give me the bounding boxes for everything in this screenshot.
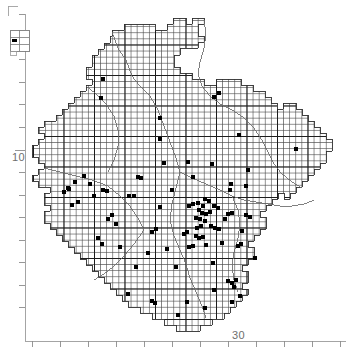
record-dot [70,203,75,208]
record-dot [176,313,181,318]
record-dot [203,219,208,224]
record-dot [182,232,187,237]
record-dot [238,294,243,299]
record-dot [100,242,105,247]
record-dot [212,95,217,100]
record-dot [62,190,67,195]
map-canvas: 10 30 [0,0,346,347]
record-dot [248,215,253,220]
record-dot [210,162,215,167]
record-dot [212,288,217,293]
record-dot [246,168,251,173]
record-dot [201,235,206,240]
record-dot [237,133,242,138]
record-dot [101,77,106,82]
record-dot [132,194,137,199]
record-dot [146,251,151,256]
record-dot [216,206,221,211]
record-dot [96,236,101,241]
record-dot [170,188,175,193]
record-dot [82,174,87,179]
record-dot [153,301,158,306]
record-dot [126,292,131,297]
record-dot [158,205,163,210]
grid-square-legend [10,30,29,55]
record-dot [134,265,139,270]
record-dot [203,306,208,311]
record-dot [234,278,239,283]
legend-marker-icon [12,39,17,43]
record-dot [158,116,163,121]
record-dot [106,217,111,222]
record-dot [88,182,93,187]
record-dot [73,180,78,185]
record-dot [174,265,179,270]
record-dot [165,247,170,252]
record-dot [207,199,212,204]
record-dot [76,200,81,205]
record-dot [229,182,234,187]
record-dot [244,184,249,189]
record-dot [185,300,190,305]
record-dot [118,245,123,250]
record-dot [199,224,204,229]
record-dot [162,161,167,166]
record-dot [191,202,196,207]
record-dot [294,147,299,152]
record-dot [223,217,228,222]
record-dot [150,230,155,235]
record-dot [232,285,237,290]
record-dot [110,213,115,218]
horizontal-axis-label: 30 [232,329,245,341]
record-dot [208,210,213,215]
distribution-map-figure: 10 30 10 30 Records plotted on 10 km squ… [0,0,346,347]
record-dot [158,137,163,142]
record-dot [127,194,132,199]
record-dot [230,300,235,305]
record-dot [240,229,245,234]
record-dot [217,227,222,232]
vertical-axis-label: 10 [12,151,25,163]
record-dot [99,96,104,101]
record-dot [230,211,235,216]
record-dot [186,160,191,165]
record-dot [139,176,144,181]
record-dot [253,256,258,261]
record-dot [191,175,196,180]
record-dot [114,222,119,227]
record-dot [217,91,222,96]
record-dot [228,188,233,193]
record-dot [201,204,206,209]
record-dot [220,241,225,246]
record-dot [92,194,97,199]
record-dot [191,244,196,249]
record-dot [198,217,203,222]
record-dot [239,242,244,247]
record-dot [66,186,71,191]
record-dot [204,243,209,248]
record-dot [196,201,201,206]
record-dot [105,189,110,194]
record-dot [211,261,216,266]
